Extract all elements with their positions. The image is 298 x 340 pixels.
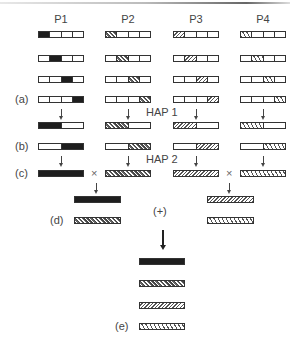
arrow-down-icon (196, 109, 197, 117)
b-bar-p1 (38, 143, 84, 150)
column-title-p1: P1 (38, 13, 84, 25)
arrow-down-icon (96, 183, 97, 191)
segment-bar-p1-r1 (38, 31, 84, 38)
row-label-b: (b) (15, 140, 28, 152)
hap1-bar-p2 (105, 122, 151, 129)
scan-border-line (0, 2, 290, 4)
arrow-down-icon (263, 156, 264, 164)
segment-bar-p3-r1 (173, 31, 219, 38)
segment-bar-p2-r3 (105, 76, 151, 83)
segment-bar-p3-r2 (173, 55, 219, 62)
segment-bar-p1-r3 (38, 76, 84, 83)
segment-bar-p3-r4 (173, 96, 219, 103)
segment-bar-p4-r3 (240, 76, 286, 83)
b-bar-p3 (173, 143, 219, 150)
arrow-down-icon (196, 156, 197, 164)
cross-symbol-left: × (91, 167, 97, 179)
arrow-down-large-icon (162, 230, 164, 247)
arrow-down-icon (61, 109, 62, 117)
arrow-down-icon (229, 183, 230, 191)
e-bar-p4 (139, 323, 185, 330)
arrow-down-icon (128, 156, 129, 164)
column-title-p3: P3 (173, 13, 219, 25)
segment-bar-p1-r2 (38, 55, 84, 62)
plus-label: (+) (153, 205, 167, 217)
segment-bar-p4-r2 (240, 55, 286, 62)
c-bar-p3 (173, 170, 219, 177)
hap1-bar-p1 (38, 122, 84, 129)
step-label-hap2: HAP 2 (146, 153, 178, 165)
d-left-bar-p2 (74, 217, 121, 224)
row-label-e: (e) (115, 320, 128, 332)
e-bar-p2 (139, 280, 185, 287)
e-bar-p1 (139, 258, 185, 265)
arrow-down-icon (61, 156, 62, 164)
segment-bar-p4-r1 (240, 31, 286, 38)
c-bar-p1 (38, 170, 84, 177)
c-bar-p4 (240, 170, 286, 177)
column-title-p2: P2 (105, 13, 151, 25)
segment-bar-p3-r3 (173, 76, 219, 83)
b-bar-p4 (240, 143, 286, 150)
arrow-down-icon (263, 109, 264, 117)
c-bar-p2 (105, 170, 151, 177)
hap1-bar-p3 (173, 122, 219, 129)
segment-bar-p2-r4 (105, 96, 151, 103)
segment-bar-p2-r1 (105, 31, 151, 38)
row-label-d: (d) (50, 214, 63, 226)
row-label-a: (a) (15, 93, 28, 105)
e-bar-p3 (139, 302, 185, 309)
segment-bar-p4-r4 (240, 96, 286, 103)
cross-symbol-right: × (226, 167, 232, 179)
d-right-bar-p4 (207, 217, 254, 224)
segment-bar-p1-r4 (38, 96, 84, 103)
d-left-bar-p1 (74, 196, 121, 203)
column-title-p4: P4 (240, 13, 286, 25)
row-label-c: (c) (15, 167, 28, 179)
segment-bar-p2-r2 (105, 55, 151, 62)
d-right-bar-p3 (207, 196, 254, 203)
arrow-down-icon (128, 109, 129, 117)
b-bar-p2 (105, 143, 151, 150)
hap1-bar-p4 (240, 122, 286, 129)
step-label-hap1: HAP 1 (146, 106, 178, 118)
